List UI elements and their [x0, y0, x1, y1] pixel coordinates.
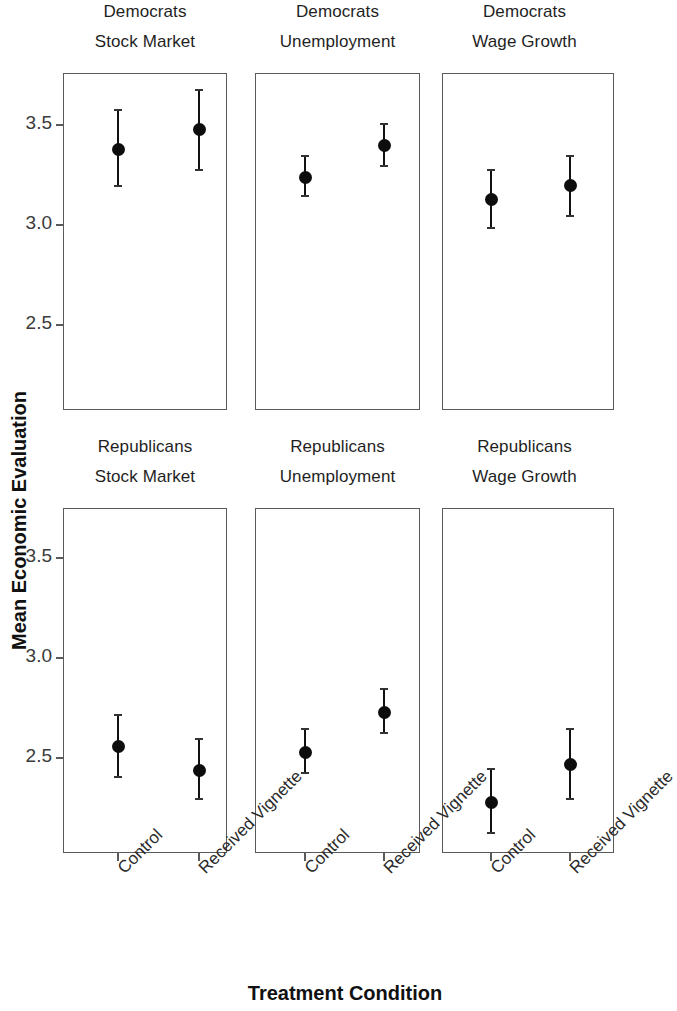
- y-tick-label-row1-1: 3.0: [0, 645, 52, 667]
- strip-label-democrats-stock-market-party: Democrats: [63, 2, 227, 22]
- error-bar-cap-top-republicans-unemployment-control: [301, 728, 309, 730]
- strip-label-republicans-wage-growth-outcome: Wage Growth: [442, 467, 607, 487]
- error-bar-cap-top-democrats-stock-market-received-vignette: [195, 89, 203, 91]
- strip-label-democrats-wage-growth-outcome: Wage Growth: [442, 32, 607, 52]
- error-bar-cap-bottom-republicans-unemployment-control: [301, 772, 309, 774]
- error-bar-cap-top-republicans-stock-market-received-vignette: [195, 738, 203, 740]
- strip-label-republicans-stock-market-party: Republicans: [63, 437, 227, 457]
- error-bar-cap-top-democrats-unemployment-received-vignette: [380, 123, 388, 125]
- data-point-democrats-stock-market-received-vignette[interactable]: [193, 123, 206, 136]
- error-bar-cap-top-democrats-wage-growth-received-vignette: [566, 155, 574, 157]
- error-bar-cap-bottom-democrats-stock-market-received-vignette: [195, 169, 203, 171]
- strip-label-democrats-stock-market-outcome: Stock Market: [63, 32, 227, 52]
- error-bar-cap-bottom-republicans-wage-growth-control: [487, 832, 495, 834]
- error-bar-cap-bottom-democrats-wage-growth-received-vignette: [566, 215, 574, 217]
- error-bar-cap-bottom-republicans-wage-growth-received-vignette: [566, 798, 574, 800]
- y-tick-mark-row1-1: [56, 657, 63, 658]
- error-bar-cap-bottom-republicans-stock-market-control: [114, 776, 122, 778]
- panel-democrats-unemployment: [255, 73, 420, 410]
- data-point-republicans-unemployment-received-vignette[interactable]: [378, 706, 391, 719]
- error-bar-cap-top-republicans-wage-growth-received-vignette: [566, 728, 574, 730]
- y-tick-label-row0-1: 3.0: [0, 212, 52, 234]
- y-tick-mark-row0-1: [56, 224, 63, 225]
- error-bar-cap-bottom-democrats-unemployment-control: [301, 195, 309, 197]
- panel-republicans-stock-market: [63, 508, 227, 853]
- strip-label-democrats-unemployment-outcome: Unemployment: [255, 32, 420, 52]
- strip-label-democrats-wage-growth-party: Democrats: [442, 2, 607, 22]
- y-axis-title: Mean Economic Evaluation: [8, 391, 31, 650]
- data-point-democrats-stock-market-control[interactable]: [112, 143, 125, 156]
- data-point-democrats-wage-growth-control[interactable]: [485, 193, 498, 206]
- data-point-democrats-unemployment-received-vignette[interactable]: [378, 139, 391, 152]
- error-bar-cap-top-republicans-wage-growth-control: [487, 768, 495, 770]
- data-point-republicans-unemployment-control[interactable]: [299, 746, 312, 759]
- data-point-democrats-wage-growth-received-vignette[interactable]: [564, 179, 577, 192]
- error-bar-cap-bottom-republicans-unemployment-received-vignette: [380, 732, 388, 734]
- strip-label-republicans-stock-market-outcome: Stock Market: [63, 467, 227, 487]
- y-tick-label-row0-0: 3.5: [0, 112, 52, 134]
- strip-label-democrats-unemployment-party: Democrats: [255, 2, 420, 22]
- data-point-republicans-wage-growth-control[interactable]: [485, 796, 498, 809]
- y-tick-label-row1-0: 3.5: [0, 545, 52, 567]
- error-bar-cap-top-democrats-wage-growth-control: [487, 169, 495, 171]
- error-bar-cap-top-republicans-stock-market-control: [114, 714, 122, 716]
- strip-label-republicans-unemployment-outcome: Unemployment: [255, 467, 420, 487]
- y-tick-mark-row1-2: [56, 757, 63, 758]
- data-point-republicans-stock-market-control[interactable]: [112, 740, 125, 753]
- error-bar-cap-top-republicans-unemployment-received-vignette: [380, 688, 388, 690]
- data-point-democrats-unemployment-control[interactable]: [299, 171, 312, 184]
- error-bar-cap-bottom-republicans-stock-market-received-vignette: [195, 798, 203, 800]
- data-point-republicans-wage-growth-received-vignette[interactable]: [564, 758, 577, 771]
- error-bar-cap-bottom-democrats-wage-growth-control: [487, 227, 495, 229]
- error-bar-cap-bottom-democrats-stock-market-control: [114, 185, 122, 187]
- x-axis-title: Treatment Condition: [195, 982, 495, 1005]
- data-point-republicans-stock-market-received-vignette[interactable]: [193, 764, 206, 777]
- error-bar-cap-top-democrats-stock-market-control: [114, 109, 122, 111]
- strip-label-republicans-wage-growth-party: Republicans: [442, 437, 607, 457]
- y-tick-mark-row0-0: [56, 124, 63, 125]
- strip-label-republicans-unemployment-party: Republicans: [255, 437, 420, 457]
- y-tick-mark-row1-0: [56, 557, 63, 558]
- y-tick-mark-row0-2: [56, 324, 63, 325]
- error-bar-cap-top-democrats-unemployment-control: [301, 155, 309, 157]
- error-bar-cap-bottom-democrats-unemployment-received-vignette: [380, 165, 388, 167]
- y-tick-label-row1-2: 2.5: [0, 745, 52, 767]
- y-tick-label-row0-2: 2.5: [0, 312, 52, 334]
- panel-democrats-wage-growth: [442, 73, 614, 410]
